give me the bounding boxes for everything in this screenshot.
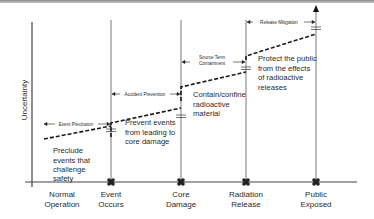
svg-text:releases: releases	[258, 83, 287, 92]
stage-label-normal: Normal Operation	[44, 190, 79, 209]
svg-text:Core: Core	[172, 190, 190, 199]
svg-text:Public: Public	[305, 190, 327, 199]
description-prevent: Prevent events from leading to core dama…	[125, 118, 176, 146]
svg-text:Prevent events: Prevent events	[125, 118, 176, 127]
phase-label-source-term-2: Containment	[199, 61, 226, 66]
svg-text:from the effects: from the effects	[258, 64, 310, 73]
svg-text:Protect the public: Protect the public	[258, 54, 317, 63]
stage-label-core: Core Damage	[166, 190, 197, 209]
svg-text:Radiation: Radiation	[229, 190, 263, 199]
svg-text:of radioactive: of radioactive	[258, 73, 303, 82]
svg-text:Contain/confine: Contain/confine	[193, 90, 246, 99]
svg-text:Normal: Normal	[49, 190, 75, 199]
phase-label-source-term-1: Source Term	[199, 55, 225, 60]
svg-text:Event: Event	[101, 190, 122, 199]
svg-text:material: material	[193, 109, 220, 118]
description-contain: Contain/confine radioactive material	[193, 90, 246, 118]
stage-label-public: Public Exposed	[300, 190, 331, 209]
svg-text:Operation: Operation	[44, 200, 79, 209]
svg-text:core damage: core damage	[125, 137, 169, 146]
defense-in-depth-diagram: Uncertainty Event Preclusion Accident P	[0, 0, 374, 219]
svg-text:Release: Release	[231, 200, 261, 209]
svg-text:safety: safety	[53, 174, 73, 183]
svg-text:radioactive: radioactive	[193, 100, 230, 109]
description-preclude: Preclude events that challenge safety	[53, 146, 91, 183]
svg-text:from leading to: from leading to	[125, 128, 175, 137]
phase-label-accident-prevention: Accident Prevention	[125, 92, 166, 97]
svg-text:challenge: challenge	[53, 165, 86, 174]
description-protect: Protect the public from the effects of r…	[258, 54, 317, 92]
y-axis-label: Uncertainty	[20, 80, 29, 120]
svg-text:Preclude: Preclude	[53, 146, 83, 155]
svg-text:Exposed: Exposed	[300, 200, 331, 209]
stage-label-radiation: Radiation Release	[229, 190, 263, 209]
phase-label-event-preclusion: Event Preclusion	[59, 122, 94, 127]
arrow-up-icon	[313, 5, 319, 12]
phase-label-release-mitigation: Release Mitigation	[260, 20, 298, 25]
svg-text:events that: events that	[53, 156, 91, 165]
stage-label-event: Event Occurs	[98, 190, 123, 209]
svg-text:Damage: Damage	[166, 200, 197, 209]
svg-text:Occurs: Occurs	[98, 200, 123, 209]
